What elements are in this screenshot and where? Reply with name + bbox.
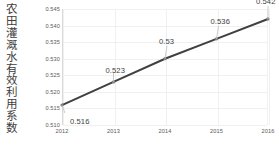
data-point-marker: [112, 80, 115, 83]
series-polyline: [62, 19, 268, 105]
data-point-marker: [60, 104, 63, 107]
x-axis-tick-label: 2012: [42, 128, 82, 134]
x-axis-tick-label: 2016: [248, 128, 279, 134]
data-point-marker: [266, 17, 269, 20]
y-axis-tick-label: 0.520: [30, 89, 60, 95]
data-label: 0.542: [256, 0, 276, 6]
vertical-gridline: [269, 9, 270, 125]
y-axis-tick-label: 0.535: [30, 39, 60, 45]
series-line: [62, 9, 268, 125]
line-chart: 农 田 灌 溉 水 有 效 利 用 系 数 0.5100.5150.5200.5…: [0, 0, 279, 148]
y-axis-tick-label: 0.540: [30, 23, 60, 29]
x-axis-tick-labels: 20122013201420152016: [62, 128, 268, 142]
y-axis-tick-labels: 0.5100.5150.5200.5250.5300.5350.5400.545: [28, 9, 60, 125]
horizontal-gridline: [63, 125, 267, 126]
y-axis-tick-label: 0.515: [30, 105, 60, 111]
y-axis-title: 农 田 灌 溉 水 有 效 利 用 系 数: [1, 4, 21, 146]
y-axis-tick-label: 0.545: [30, 6, 60, 12]
x-axis-tick-label: 2013: [94, 128, 134, 134]
data-point-marker: [215, 37, 218, 40]
x-axis-tick-label: 2014: [145, 128, 185, 134]
y-axis-tick-label: 0.525: [30, 72, 60, 78]
x-axis-tick-label: 2015: [197, 128, 237, 134]
y-axis-tick-label: 0.530: [30, 56, 60, 62]
data-point-marker: [163, 57, 166, 60]
